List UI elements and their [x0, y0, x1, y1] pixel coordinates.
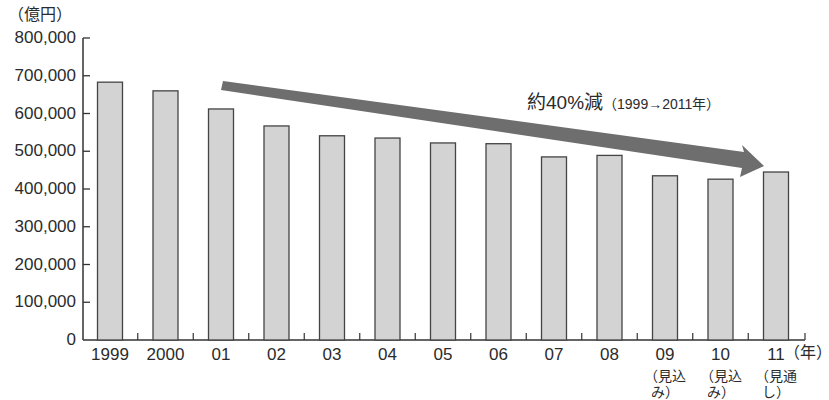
y-tick-label: 800,000: [4, 29, 76, 47]
x-tick-label: 03: [304, 346, 360, 364]
bar-03: [320, 136, 345, 340]
y-tick-label: 0: [4, 331, 76, 349]
y-tick-label: 700,000: [4, 67, 76, 85]
bar-06: [486, 144, 511, 340]
y-tick-label: 600,000: [4, 105, 76, 123]
x-tick-label: 08: [582, 346, 638, 364]
x-tick-label: 04: [360, 346, 416, 364]
y-tick-label: 500,000: [4, 142, 76, 160]
bar-11: [764, 172, 789, 340]
x-tick-label: 05: [415, 346, 471, 364]
annotation-detail: （1999→2011年）: [603, 96, 720, 112]
y-tick-label: 200,000: [4, 256, 76, 274]
annotation-text: 約40%減（1999→2011年）: [527, 92, 720, 115]
bar-02: [264, 126, 289, 340]
bar-10: [708, 179, 733, 340]
x-tick-note: （見込み）: [691, 368, 751, 400]
x-tick-label: 02: [249, 346, 305, 364]
y-tick-label: 100,000: [4, 293, 76, 311]
x-tick-label: 09: [637, 346, 693, 364]
x-tick-label: 06: [471, 346, 527, 364]
x-tick-note: （見込み）: [635, 368, 695, 400]
bar-1999: [98, 82, 123, 340]
y-tick-label: 300,000: [4, 218, 76, 236]
bar-09: [653, 176, 678, 340]
x-tick-label: 10: [693, 346, 749, 364]
bar-04: [375, 138, 400, 340]
bar-05: [431, 143, 456, 340]
bar-08: [597, 155, 622, 340]
y-tick-label: 400,000: [4, 180, 76, 198]
x-tick-note: （見通し）: [746, 368, 806, 400]
annotation-main: 約40%減: [527, 92, 603, 113]
x-axis-unit-label: （年）: [784, 344, 829, 362]
bar-07: [542, 157, 567, 340]
y-axis-unit-label: （億円）: [8, 6, 72, 24]
x-tick-label: 01: [193, 346, 249, 364]
bar-2000: [153, 91, 178, 340]
bar-01: [209, 109, 234, 340]
x-tick-label: 07: [526, 346, 582, 364]
x-tick-label: 1999: [82, 346, 138, 364]
x-tick-label: 2000: [138, 346, 194, 364]
